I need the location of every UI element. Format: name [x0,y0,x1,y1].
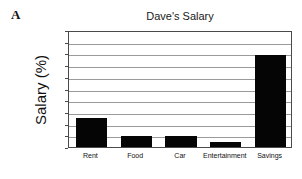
x-axis-tick-label: Savings [241,151,298,160]
bar [255,55,286,147]
bar [210,142,241,147]
plot-area [68,31,292,148]
x-axis-tick-group: RentFoodCarEntertainmentSavings [68,151,292,165]
panel-label: A [11,8,20,21]
bar [76,118,107,147]
gridline [69,44,291,45]
bar [121,136,152,147]
bar-chart-figure: A Dave's Salary Salary (%) 0102030405060… [0,0,302,179]
chart-title: Dave's Salary [68,10,292,22]
y-axis-tick-mark [65,148,68,149]
bar [165,136,196,147]
